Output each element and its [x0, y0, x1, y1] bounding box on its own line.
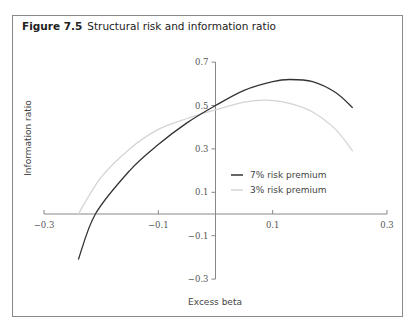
y-tick-label: 0.5	[195, 101, 209, 111]
x-axis-label: Excess beta	[188, 297, 242, 307]
x-tick-label: 0.1	[266, 220, 280, 230]
chart-plot: −0.3−0.10.10.30.70.50.30.1−0.1−0.3 7% ri…	[0, 0, 412, 332]
x-tick-label: 0.3	[380, 220, 394, 230]
y-axis-label: Information ratio	[23, 100, 33, 176]
x-tick-label: −0.1	[148, 220, 169, 230]
legend-label: 3% risk premium	[250, 185, 327, 195]
x-tick-label: −0.3	[34, 220, 55, 230]
axes: −0.3−0.10.10.30.70.50.30.1−0.1−0.3	[34, 57, 394, 284]
legend: 7% risk premium3% risk premium	[231, 170, 327, 195]
y-tick-label: 0.7	[195, 57, 209, 67]
y-tick-label: 0.1	[195, 187, 209, 197]
y-tick-label: −0.3	[188, 274, 209, 284]
y-tick-label: 0.3	[195, 144, 209, 154]
legend-label: 7% risk premium	[250, 170, 327, 180]
y-tick-label: −0.1	[188, 231, 209, 241]
